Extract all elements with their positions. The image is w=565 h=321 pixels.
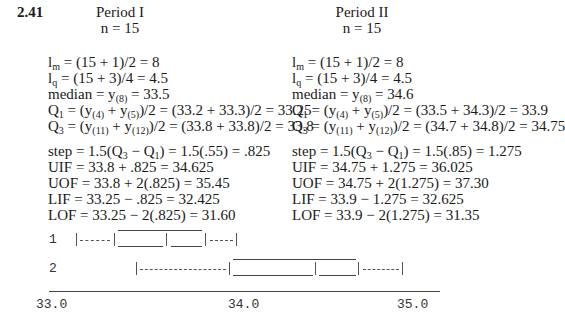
median-line: median = y(8) = 33.5: [48, 86, 170, 102]
lof-line: LOF = 33.25 − 2(.825) = 31.60: [48, 207, 235, 223]
lif-line: LIF = 33.25 − .825 = 32.425: [48, 191, 220, 207]
lm-line: lm = (15 + 1)/2 = 8: [292, 54, 404, 70]
median-line: [166, 233, 167, 246]
axis-tick-34: 34.0: [228, 297, 259, 312]
lq-line: lq = (15 + 3)/4 = 4.5: [292, 70, 412, 86]
whisker-end-low: [136, 262, 137, 275]
q3-edge: [358, 262, 359, 275]
q1-edge: [114, 233, 115, 246]
boxplot-row-label-1: 1: [49, 232, 57, 247]
period-1-title: Period I: [60, 4, 180, 20]
q1-line: Q1 = (y(4) + y(5))/2 = (33.2 + 33.3)/2 =…: [48, 102, 312, 118]
whisker-end-low: [76, 233, 77, 246]
axis-tick-35: 35.0: [397, 297, 428, 312]
whisker-high: [210, 240, 233, 241]
box-bottom-left: [118, 246, 163, 247]
x-axis-line: [49, 291, 440, 292]
step-line: step = 1.5(Q3 − Q1) = 1.5(.85) = 1.275: [292, 143, 522, 159]
boxplot-row-label-2: 2: [49, 261, 57, 276]
lm-line: lm = (15 + 1)/2 = 8: [48, 54, 160, 70]
box-top: [118, 230, 202, 231]
lq-line: lq = (15 + 3)/4 = 4.5: [48, 70, 168, 86]
q3-line: Q3 = (y(11) + y(12))/2 = (34.7 + 34.8)/2…: [292, 118, 565, 134]
whisker-end-high: [402, 262, 403, 275]
box-bottom-left: [233, 275, 313, 276]
period-2-title: Period II: [302, 4, 422, 20]
q3-line: Q3 = (y(11) + y(12))/2 = (33.8 + 33.8)/2…: [48, 118, 314, 134]
whisker-low: [140, 269, 226, 270]
box-bottom-right: [319, 275, 356, 276]
q1-line: Q1 = (y(4) + y(5))/2 = (33.5 + 34.3)/2 =…: [292, 102, 548, 118]
step-line: step = 1.5(Q3 − Q1) = 1.5(.55) = .825: [48, 143, 270, 159]
uof-line: UOF = 34.75 + 2(1.275) = 37.30: [292, 175, 489, 191]
whisker-high: [363, 269, 399, 270]
box-bottom-right: [171, 246, 202, 247]
period-1-n: n = 15: [60, 20, 180, 36]
median-line: median = y(8) = 34.6: [292, 86, 414, 102]
uif-line: UIF = 34.75 + 1.275 = 36.025: [292, 159, 473, 175]
axis-tick-33: 33.0: [36, 297, 67, 312]
whisker-low: [80, 240, 110, 241]
uif-line: UIF = 33.8 + .825 = 34.625: [48, 159, 214, 175]
q3-edge: [205, 233, 206, 246]
median-line: [315, 262, 316, 275]
problem-number: 2.41: [17, 4, 43, 21]
lif-line: LIF = 33.9 − 1.275 = 32.625: [292, 191, 464, 207]
box-top: [233, 259, 356, 260]
whisker-end-high: [236, 233, 237, 246]
uof-line: UOF = 33.8 + 2(.825) = 35.45: [48, 175, 230, 191]
q1-edge: [229, 262, 230, 275]
lof-line: LOF = 33.9 − 2(1.275) = 31.35: [292, 207, 479, 223]
period-2-n: n = 15: [302, 20, 422, 36]
